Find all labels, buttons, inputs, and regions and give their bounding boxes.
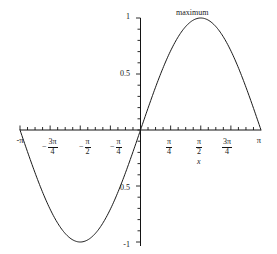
minus-sign: − [42, 143, 47, 151]
denominator-4: 4 [166, 148, 172, 157]
x-tick-label-pi-over-2: π 2 [196, 138, 202, 156]
denominator-4: 4 [116, 148, 122, 157]
x-tick-label-neg-pi-over-4: − π 4 [110, 138, 122, 156]
y-tick-label-neg-1: -1 [114, 241, 130, 249]
x-tick-label-neg-pi-over-2: − π 2 [79, 138, 91, 156]
denominator-2: 2 [85, 148, 91, 157]
x-tick-label-neg-3pi-over-4: − 3π 4 [42, 138, 58, 156]
denominator-2: 2 [196, 148, 202, 157]
minus-sign: − [79, 143, 84, 151]
denominator-4: 4 [222, 148, 232, 157]
sine-curve-plot: 1 0.5 0.5 -1 -π − 3π 4 − π 2 − π 4 π 4 π [0, 0, 277, 254]
denominator-4: 4 [48, 148, 58, 157]
x-tick-label-neg-pi: -π [12, 136, 28, 145]
maximum-annotation: maximum [176, 8, 208, 17]
plot-canvas [0, 0, 277, 254]
x-axis-ticks [20, 126, 253, 131]
x-tick-label-pi-over-4: π 4 [166, 138, 172, 156]
x-tick-label-3pi-over-4: 3π 4 [222, 138, 232, 156]
minus-sign: − [110, 143, 115, 151]
y-tick-label-1: 1 [116, 13, 130, 21]
x-axis-title: x [197, 157, 201, 166]
x-tick-label-pi: π [253, 136, 265, 145]
y-tick-label-0point5: 0.5 [112, 70, 130, 78]
y-tick-label-neg-0point5: 0.5 [112, 184, 130, 192]
